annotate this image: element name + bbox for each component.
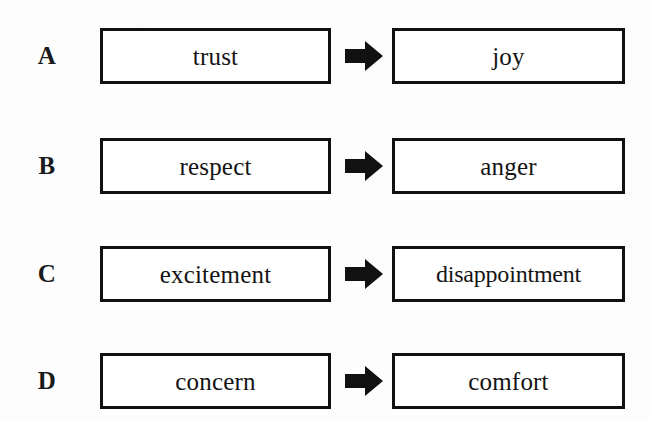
right-block-arrow-icon bbox=[345, 150, 383, 182]
source-term-b: respect bbox=[179, 154, 251, 179]
diagram-row: A trust joy bbox=[0, 28, 651, 84]
diagram-row: C excitement disappointment bbox=[0, 246, 651, 302]
source-term-a: trust bbox=[193, 44, 238, 69]
right-block-arrow-icon bbox=[345, 40, 383, 72]
target-term-a: joy bbox=[492, 44, 525, 69]
row-label-d: D bbox=[30, 353, 64, 409]
target-box-d: comfort bbox=[392, 353, 625, 409]
target-box-a: joy bbox=[392, 28, 625, 84]
diagram-row: D concern comfort bbox=[0, 353, 651, 409]
target-term-c: disappointment bbox=[436, 262, 581, 286]
target-box-c: disappointment bbox=[392, 246, 625, 302]
right-block-arrow-icon bbox=[345, 365, 383, 397]
right-block-arrow-icon bbox=[345, 258, 383, 290]
source-term-c: excitement bbox=[160, 262, 272, 287]
row-label-b: B bbox=[30, 138, 64, 194]
diagram-row: B respect anger bbox=[0, 138, 651, 194]
source-box-d: concern bbox=[100, 353, 331, 409]
term-pair-diagram: A trust joy B respect anger C excitem bbox=[0, 0, 651, 421]
source-box-b: respect bbox=[100, 138, 331, 194]
target-box-b: anger bbox=[392, 138, 625, 194]
target-term-d: comfort bbox=[468, 369, 549, 394]
row-label-a: A bbox=[30, 28, 64, 84]
source-box-a: trust bbox=[100, 28, 331, 84]
source-term-d: concern bbox=[175, 369, 256, 394]
target-term-b: anger bbox=[480, 154, 537, 179]
row-label-c: C bbox=[30, 246, 64, 302]
source-box-c: excitement bbox=[100, 246, 331, 302]
